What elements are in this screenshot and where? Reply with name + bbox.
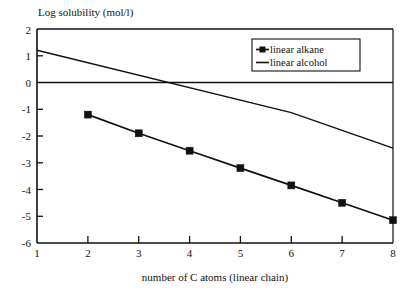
x-tick-label-2: 3 (136, 247, 142, 259)
x-tick-label-6: 7 (339, 247, 345, 259)
y-tick-label-1: 1 (26, 50, 32, 62)
y-tick-marks (37, 56, 43, 217)
alkane-point-c4 (186, 147, 193, 154)
y-tick-label-6: -4 (22, 184, 32, 196)
alkane-point-c8 (390, 217, 397, 224)
y-tick-labels: 2 1 0 -1 -2 -3 -4 -5 -6 (22, 24, 32, 250)
chart-figure: 2 1 0 -1 -2 -3 -4 -5 -6 1 2 3 4 5 6 7 8 … (0, 0, 415, 291)
y-tick-label-2: 0 (26, 77, 32, 89)
chart-legend[interactable]: linear alkane linear alcohol (252, 39, 360, 71)
legend-square-marker-icon (260, 47, 266, 53)
solubility-line-chart: 2 1 0 -1 -2 -3 -4 -5 -6 1 2 3 4 5 6 7 8 … (0, 0, 415, 291)
legend-label-alcohol: linear alcohol (270, 57, 328, 68)
y-tick-label-4: -2 (22, 130, 31, 142)
x-tick-label-1: 2 (85, 247, 91, 259)
x-tick-labels: 1 2 3 4 5 6 7 8 (34, 247, 396, 259)
alkane-point-c2 (84, 111, 91, 118)
x-tick-label-4: 5 (238, 247, 244, 259)
x-tick-label-5: 6 (289, 247, 295, 259)
x-tick-label-7: 8 (390, 247, 396, 259)
legend-label-alkane: linear alkane (270, 44, 324, 55)
y-tick-label-0: 2 (26, 24, 32, 36)
series-linear-alkane (84, 111, 396, 224)
x-tick-marks (88, 236, 342, 243)
alkane-point-c6 (288, 182, 295, 189)
y-tick-label-5: -3 (22, 157, 32, 169)
chart-title: Log solubility (mol/l) (38, 6, 134, 19)
x-axis-title: number of C atoms (linear chain) (142, 271, 289, 284)
alkane-point-c3 (135, 130, 142, 137)
y-tick-label-8: -6 (22, 237, 32, 249)
x-tick-label-0: 1 (34, 247, 40, 259)
alkane-point-c7 (339, 199, 346, 206)
y-tick-label-3: -1 (22, 103, 31, 115)
x-tick-label-3: 4 (187, 247, 193, 259)
y-tick-label-7: -5 (22, 210, 32, 222)
alkane-point-c5 (237, 165, 244, 172)
